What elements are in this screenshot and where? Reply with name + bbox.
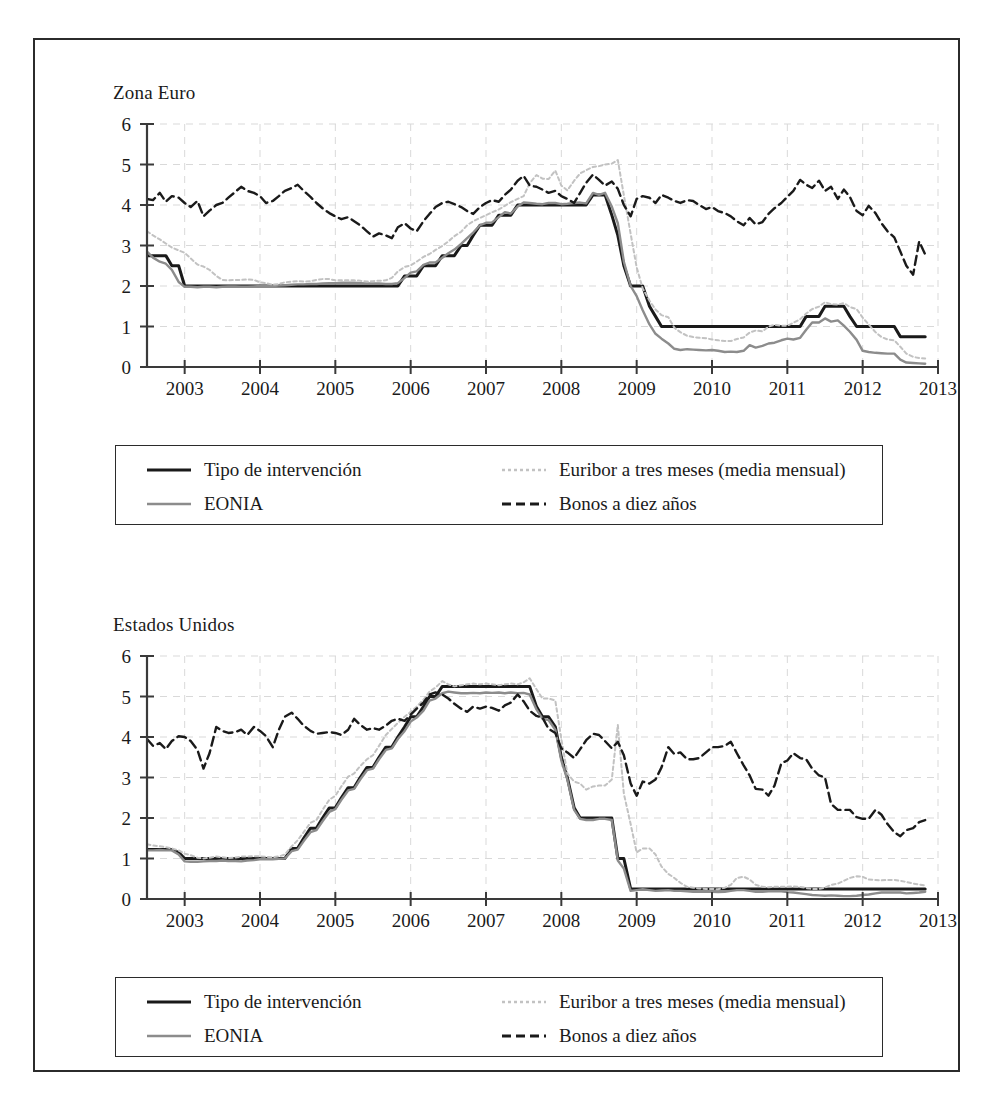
x-tick-label: 2009 — [618, 378, 656, 399]
y-tick-label: 3 — [122, 236, 132, 257]
x-tick-label: 2013 — [919, 910, 957, 931]
legend-label-euribor-us: Euribor a tres meses (media mensual) — [559, 992, 845, 1011]
x-tick-label: 2011 — [769, 910, 806, 931]
series-line-1 — [147, 692, 925, 897]
panel-title-estados-unidos: Estados Unidos — [113, 614, 235, 636]
series-line-3 — [147, 175, 925, 275]
x-tick-label: 2004 — [241, 910, 280, 931]
plot-zona-euro: 0123456200320042005200620072008200920102… — [35, 110, 962, 400]
x-tick-label: 2012 — [844, 910, 882, 931]
y-tick-label: 6 — [122, 646, 132, 667]
y-tick-label: 4 — [122, 727, 132, 748]
legend-label-eonia: EONIA — [204, 494, 263, 513]
x-tick-label: 2005 — [316, 910, 354, 931]
x-tick-label: 2012 — [844, 378, 882, 399]
x-tick-label: 2006 — [392, 910, 430, 931]
legend-item-eonia[interactable]: EONIA — [146, 494, 263, 513]
y-tick-label: 0 — [122, 889, 132, 910]
x-tick-label: 2006 — [392, 378, 430, 399]
legend-label-euribor: Euribor a tres meses (media mensual) — [559, 460, 845, 479]
legend-zona-euro: Tipo de intervención EONIA Euribor a tre… — [115, 445, 883, 525]
y-tick-label: 2 — [122, 276, 132, 297]
series-line-1 — [147, 193, 925, 364]
x-tick-label: 2007 — [467, 378, 505, 399]
legend-label-policy-rate-us: Tipo de intervención — [204, 992, 362, 1011]
chart-svg-estados-unidos: 0123456200320042005200620072008200920102… — [35, 642, 962, 932]
legend-label-policy-rate: Tipo de intervención — [204, 460, 362, 479]
x-tick-label: 2011 — [769, 378, 806, 399]
x-tick-label: 2009 — [618, 910, 656, 931]
series-line-0 — [147, 195, 925, 337]
legend-swatch-solid-black-icon — [146, 464, 192, 476]
x-tick-label: 2003 — [166, 910, 204, 931]
y-tick-label: 5 — [122, 687, 132, 708]
legend-swatch-solid-black-icon — [146, 996, 192, 1008]
x-tick-label: 2010 — [693, 910, 731, 931]
y-tick-label: 5 — [122, 155, 132, 176]
legend-item-policy-rate[interactable]: Tipo de intervención — [146, 460, 362, 479]
panel-estados-unidos: Estados Unidos 0123456200320042005200620… — [35, 572, 958, 1042]
y-tick-label: 2 — [122, 808, 132, 829]
series-line-3 — [147, 692, 925, 836]
x-tick-label: 2010 — [693, 378, 731, 399]
legend-item-eonia-us[interactable]: EONIA — [146, 1026, 263, 1045]
legend-item-euribor-us[interactable]: Euribor a tres meses (media mensual) — [501, 992, 845, 1011]
legend-item-policy-rate-us[interactable]: Tipo de intervención — [146, 992, 362, 1011]
legend-label-bonos-us: Bonos a diez años — [559, 1026, 697, 1045]
grid-lines — [147, 124, 938, 367]
legend-swatch-dotted-gray-icon — [501, 996, 547, 1008]
x-tick-label: 2008 — [542, 910, 580, 931]
legend-swatch-solid-gray-icon — [146, 498, 192, 510]
legend-swatch-solid-gray-icon — [146, 1030, 192, 1042]
data-series — [147, 678, 925, 896]
tick-labels: 0123456200320042005200620072008200920102… — [122, 114, 958, 399]
legend-item-bonos[interactable]: Bonos a diez años — [501, 494, 697, 513]
plot-estados-unidos: 0123456200320042005200620072008200920102… — [35, 642, 962, 932]
chart-svg-zona-euro: 0123456200320042005200620072008200920102… — [35, 110, 962, 400]
legend-swatch-dashed-black-icon — [501, 498, 547, 510]
legend-estados-unidos: Tipo de intervención EONIA Euribor a tre… — [115, 977, 883, 1057]
legend-swatch-dashed-black-icon — [501, 1030, 547, 1042]
figure-outer-frame: Zona Euro 012345620032004200520062007200… — [33, 38, 960, 1072]
x-tick-label: 2008 — [542, 378, 580, 399]
x-tick-label: 2013 — [919, 378, 957, 399]
x-tick-label: 2005 — [316, 378, 354, 399]
legend-label-bonos: Bonos a diez años — [559, 494, 697, 513]
x-tick-label: 2003 — [166, 378, 204, 399]
panel-title-zona-euro: Zona Euro — [113, 82, 196, 104]
x-tick-label: 2007 — [467, 910, 505, 931]
figure-page: Zona Euro 012345620032004200520062007200… — [0, 0, 991, 1108]
legend-label-eonia-us: EONIA — [204, 1026, 263, 1045]
x-tick-label: 2004 — [241, 378, 280, 399]
panel-zona-euro: Zona Euro 012345620032004200520062007200… — [35, 40, 958, 510]
y-tick-label: 1 — [122, 849, 132, 870]
y-tick-label: 0 — [122, 357, 132, 378]
legend-item-euribor[interactable]: Euribor a tres meses (media mensual) — [501, 460, 845, 479]
legend-swatch-dotted-gray-icon — [501, 464, 547, 476]
data-series — [147, 160, 925, 364]
y-tick-label: 1 — [122, 317, 132, 338]
grid-lines — [147, 656, 938, 899]
y-tick-label: 6 — [122, 114, 132, 135]
y-tick-label: 4 — [122, 195, 132, 216]
y-tick-label: 3 — [122, 768, 132, 789]
legend-item-bonos-us[interactable]: Bonos a diez años — [501, 1026, 697, 1045]
